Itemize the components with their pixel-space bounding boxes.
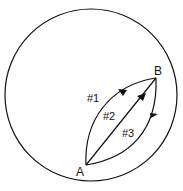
path-1-label: #1 <box>87 92 99 104</box>
point-a-label: A <box>76 165 84 179</box>
arrowhead-3-icon <box>150 113 158 118</box>
point-b-label: B <box>154 64 162 78</box>
diagram-canvas: #1 #2 #3 A B <box>0 0 183 191</box>
path-2-label: #2 <box>103 110 115 122</box>
path-3-label: #3 <box>122 127 134 139</box>
